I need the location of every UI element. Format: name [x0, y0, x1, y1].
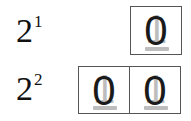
digit: 0 — [130, 70, 180, 112]
row-2-label: 22 — [16, 72, 43, 106]
row-2-exponent: 2 — [34, 70, 43, 89]
digit: 0 — [79, 70, 129, 112]
row-2-cell-1: 1 0 — [78, 66, 130, 114]
row-2-base: 2 — [16, 70, 33, 107]
digit: 0 — [131, 10, 181, 52]
row-1-cell-1: 1 0 — [130, 6, 182, 55]
row-1-exponent: 1 — [34, 12, 43, 31]
row-1-label: 21 — [16, 14, 43, 48]
row-2-cell-2: 1 0 — [129, 66, 181, 114]
row-1-base: 2 — [16, 12, 33, 49]
